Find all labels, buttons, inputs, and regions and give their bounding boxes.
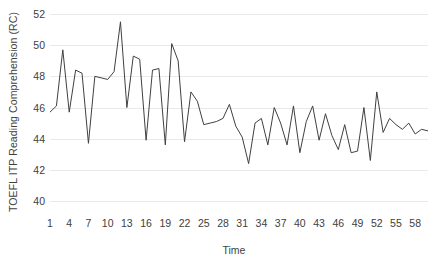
x-axis-tick: 40 [294, 217, 306, 229]
x-axis-tick: 10 [102, 217, 114, 229]
x-axis-tick: 1 [47, 217, 53, 229]
x-axis-tick: 46 [332, 217, 344, 229]
x-axis-tick: 19 [159, 217, 171, 229]
x-axis-tick: 22 [179, 217, 191, 229]
gridline [50, 201, 428, 202]
y-axis-tick: 48 [33, 70, 45, 82]
plot-area [50, 14, 428, 201]
x-axis-tick: 25 [198, 217, 210, 229]
x-axis-tick: 52 [371, 217, 383, 229]
x-axis-tick: 13 [121, 217, 133, 229]
x-axis-title-text: Time [223, 244, 246, 256]
series-line [50, 14, 428, 201]
x-axis-tick: 43 [313, 217, 325, 229]
x-axis-tick: 31 [236, 217, 248, 229]
y-axis-tick: 40 [33, 195, 45, 207]
y-axis-tick-labels: 40424446485052 [22, 0, 48, 224]
y-axis-tick: 44 [33, 133, 45, 145]
line-chart: TOEFL ITP Reading Comprehension (RC) 404… [0, 0, 440, 267]
x-axis-tick: 49 [352, 217, 364, 229]
y-axis-tick: 52 [33, 8, 45, 20]
y-axis-title-text: TOEFL ITP Reading Comprehension (RC) [7, 12, 19, 212]
y-axis-tick: 50 [33, 39, 45, 51]
series-polyline [50, 22, 428, 164]
x-axis-tick: 55 [390, 217, 402, 229]
x-axis-tick: 58 [409, 217, 421, 229]
x-axis-tick-labels: 1471013161922252831343740434649525558 [50, 203, 428, 221]
y-axis-tick: 42 [33, 164, 45, 176]
x-axis-tick: 28 [217, 217, 229, 229]
x-axis-title: Time [0, 244, 440, 256]
x-axis-tick: 37 [275, 217, 287, 229]
y-axis-tick: 46 [33, 102, 45, 114]
x-axis-tick: 16 [140, 217, 152, 229]
x-axis-tick: 4 [66, 217, 72, 229]
x-axis-tick: 34 [256, 217, 268, 229]
x-axis-tick: 7 [86, 217, 92, 229]
y-axis-title: TOEFL ITP Reading Comprehension (RC) [4, 0, 22, 224]
